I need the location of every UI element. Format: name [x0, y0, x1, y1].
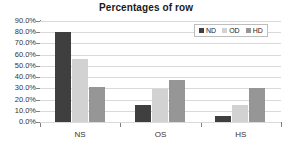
- x-axis-tick-label-os: OS: [120, 130, 200, 139]
- legend-swatch-icon: [199, 28, 204, 33]
- bar-od-ns: [72, 59, 88, 122]
- y-axis-tick: [36, 55, 40, 56]
- legend-entry-hd[interactable]: HD: [246, 27, 263, 34]
- y-axis-tick: [36, 77, 40, 78]
- y-axis-tick-label: 0.0%: [2, 118, 36, 126]
- x-axis-tick-label-hs: HS: [201, 130, 281, 139]
- bar-nd-ns: [55, 32, 71, 122]
- chart-legend: NDODHD: [194, 24, 268, 37]
- bar-hd-ns: [89, 87, 105, 122]
- bar-hd-os: [169, 80, 185, 122]
- gridline: [40, 122, 281, 123]
- legend-swatch-icon: [246, 28, 251, 33]
- x-axis-tick: [201, 123, 202, 127]
- y-axis-tick: [36, 66, 40, 67]
- x-axis-tick: [40, 123, 41, 127]
- legend-swatch-icon: [222, 28, 227, 33]
- x-axis-tick: [120, 123, 121, 127]
- bar-od-os: [152, 89, 168, 122]
- x-axis-tick-label-ns: NS: [40, 130, 120, 139]
- y-axis-tick: [36, 88, 40, 89]
- bar-group: [135, 21, 186, 122]
- y-axis-tick-label: 40.0%: [2, 73, 36, 81]
- bar-chart: Percentages of row 0.0%10.0%20.0%30.0%40…: [0, 0, 292, 147]
- y-axis-tick-label: 10.0%: [2, 107, 36, 115]
- legend-label: HD: [253, 27, 263, 34]
- chart-title: Percentages of row: [0, 2, 292, 13]
- y-axis-tick-label: 60.0%: [2, 51, 36, 59]
- y-axis-tick-label: 20.0%: [2, 96, 36, 104]
- y-axis-tick-labels: 0.0%10.0%20.0%30.0%40.0%50.0%60.0%70.0%8…: [0, 0, 36, 147]
- y-axis-tick-label: 90.0%: [2, 17, 36, 25]
- x-axis-tick: [281, 123, 282, 127]
- y-axis-tick: [36, 43, 40, 44]
- y-axis-tick-label: 70.0%: [2, 39, 36, 47]
- bar-nd-hs: [215, 116, 231, 122]
- y-axis-tick: [36, 122, 40, 123]
- legend-entry-od[interactable]: OD: [222, 27, 240, 34]
- y-axis-tick-label: 30.0%: [2, 84, 36, 92]
- y-axis-tick-label: 80.0%: [2, 28, 36, 36]
- y-axis-tick: [36, 32, 40, 33]
- y-axis-tick: [36, 111, 40, 112]
- bar-nd-os: [135, 105, 151, 122]
- bar-hd-hs: [249, 88, 265, 122]
- bar-od-hs: [232, 105, 248, 122]
- bar-group: [55, 21, 106, 122]
- legend-label: OD: [229, 27, 240, 34]
- y-axis-tick-label: 50.0%: [2, 62, 36, 70]
- legend-label: ND: [206, 27, 216, 34]
- legend-entry-nd[interactable]: ND: [199, 27, 216, 34]
- y-axis-tick: [36, 100, 40, 101]
- y-axis-tick: [36, 21, 40, 22]
